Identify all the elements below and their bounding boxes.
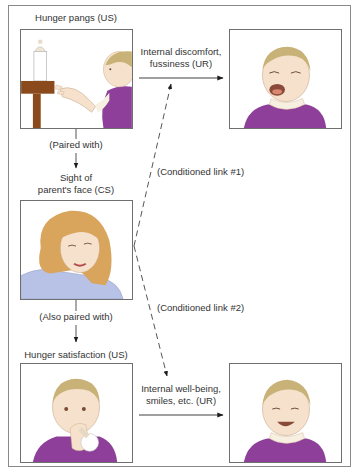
parent-face-illustration	[21, 201, 132, 299]
hunger-satisfaction-image	[20, 363, 133, 463]
baby-drinking-bottle-illustration	[21, 364, 132, 462]
hunger-pangs-image	[20, 29, 133, 129]
baby-reaching-bottle-illustration	[21, 30, 132, 128]
hunger-pangs-label: Hunger pangs (US)	[20, 12, 132, 24]
conditioned-link-1-label: (Conditioned link #1)	[157, 166, 244, 178]
smiling-baby-image	[229, 363, 342, 463]
well-being-label-line2: smiles, etc. (UR)	[135, 395, 227, 407]
paired-with-label: (Paired with)	[20, 139, 132, 151]
discomfort-label-line1: Internal discomfort,	[135, 46, 227, 58]
smiling-baby-illustration	[230, 364, 341, 462]
crying-baby-illustration	[230, 30, 341, 128]
sight-of-label-line1: Sight of	[20, 172, 132, 184]
well-being-label-line1: Internal well-being,	[135, 383, 227, 395]
sight-of-label-line2: parent's face (CS)	[20, 184, 132, 196]
hunger-satisfaction-label: Hunger satisfaction (US)	[14, 349, 138, 361]
parent-face-image	[20, 200, 133, 300]
discomfort-label-line2: fussiness (UR)	[135, 58, 227, 70]
also-paired-with-label: (Also paired with)	[20, 311, 132, 323]
conditioned-link-2-label: (Conditioned link #2)	[157, 302, 244, 314]
crying-baby-image	[229, 29, 342, 129]
